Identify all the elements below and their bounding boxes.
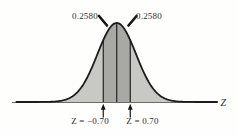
arrow-right-head xyxy=(128,104,133,110)
z-axis-label: Z xyxy=(221,97,227,108)
area-label-left: 0.2580 xyxy=(72,11,98,21)
figure-canvas: 0.2580 0.2580 Z = −0.70 Z = 0.70 Z xyxy=(0,0,237,135)
z-value-label-right: Z = 0.70 xyxy=(126,116,159,126)
arrow-left-head xyxy=(101,104,106,110)
z-value-label-left: Z = −0.70 xyxy=(71,116,109,126)
area-label-right: 0.2580 xyxy=(136,11,162,21)
normal-curve-figure: 0.2580 0.2580 Z = −0.70 Z = 0.70 Z xyxy=(0,0,237,135)
pointer-left xyxy=(99,16,107,26)
